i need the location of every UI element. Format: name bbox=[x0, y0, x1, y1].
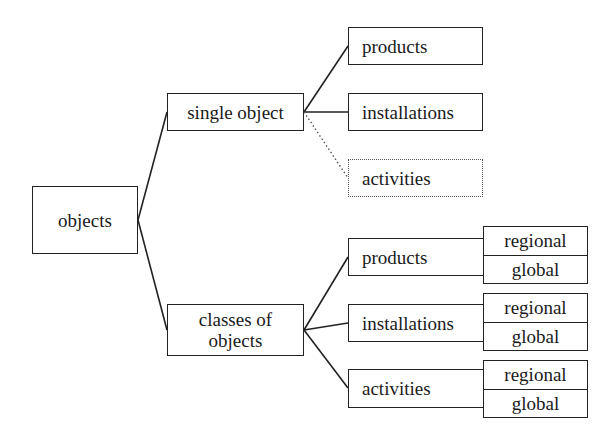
scope-box-activities: regional global bbox=[483, 360, 588, 418]
edge-objects-single-object bbox=[138, 112, 167, 220]
node-classes-products: products bbox=[348, 238, 484, 276]
node-objects-label: objects bbox=[58, 210, 112, 231]
node-classes-of-objects-line2: objects bbox=[209, 330, 263, 351]
node-classes-activities: activities bbox=[348, 369, 484, 408]
node-single-products: products bbox=[348, 27, 483, 65]
edge-classes-installations bbox=[304, 323, 348, 330]
node-single-products-label: products bbox=[362, 36, 427, 57]
scope-global: global bbox=[484, 255, 587, 283]
node-classes-installations-label: installations bbox=[362, 313, 454, 334]
scope-global: global bbox=[484, 322, 587, 350]
scope-global: global bbox=[484, 389, 587, 417]
node-single-object: single object bbox=[167, 93, 304, 131]
node-classes-installations: installations bbox=[348, 304, 484, 342]
node-classes-products-label: products bbox=[362, 247, 427, 268]
node-classes-activities-label: activities bbox=[362, 378, 431, 399]
node-single-object-label: single object bbox=[187, 102, 284, 123]
node-single-installations-label: installations bbox=[362, 102, 454, 123]
edge-single-object-products bbox=[304, 46, 348, 112]
node-single-installations: installations bbox=[348, 93, 483, 131]
scope-box-installations: regional global bbox=[483, 293, 588, 351]
node-classes-of-objects: classes of objects bbox=[167, 304, 304, 356]
scope-regional: regional bbox=[484, 227, 587, 255]
scope-regional: regional bbox=[484, 294, 587, 322]
node-single-activities-label: activities bbox=[362, 168, 431, 189]
scope-regional: regional bbox=[484, 361, 587, 389]
edge-classes-activities bbox=[304, 330, 348, 388]
node-objects: objects bbox=[32, 186, 138, 254]
edge-objects-classes-of-objects bbox=[138, 220, 167, 330]
edge-single-object-activities-dotted bbox=[304, 112, 348, 178]
edge-classes-products bbox=[304, 257, 348, 330]
node-classes-of-objects-line1: classes of bbox=[199, 309, 272, 330]
scope-box-products: regional global bbox=[483, 226, 588, 284]
node-single-activities: activities bbox=[348, 159, 483, 197]
